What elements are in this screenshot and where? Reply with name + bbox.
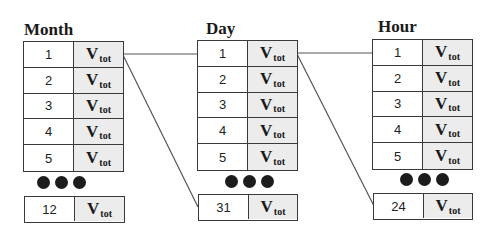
dot-icon	[55, 176, 68, 189]
hour-number: 2	[373, 66, 423, 91]
hour-table: 1Vtot 2Vtot 3Vtot 4Vtot 5Vtot	[372, 39, 473, 170]
table-row: 1Vtot	[373, 40, 472, 66]
ellipsis-dots	[400, 173, 449, 186]
table-row: 1Vtot	[198, 41, 297, 67]
month-number: 1	[24, 42, 74, 67]
table-row: 4Vtot	[24, 119, 123, 145]
connector-day-to-hour-last	[297, 54, 374, 206]
day-number: 5	[198, 144, 248, 170]
dot-icon	[418, 173, 431, 186]
table-row: 2Vtot	[24, 68, 123, 94]
day-title: Day	[206, 20, 235, 37]
vtot-cell: Vtot	[75, 197, 124, 221]
vtot-cell: Vtot	[74, 94, 123, 119]
vtot-cell: Vtot	[423, 117, 472, 142]
day-table: 1Vtot 2Vtot 3Vtot 4Vtot 5Vtot	[197, 40, 298, 171]
hour-number: 4	[373, 117, 423, 142]
table-row: 3Vtot	[24, 94, 123, 120]
dot-icon	[400, 173, 413, 186]
dot-icon	[37, 176, 50, 189]
ellipsis-dots	[225, 175, 274, 188]
day-table-last: 31Vtot	[198, 194, 298, 221]
dot-icon	[261, 175, 274, 188]
vtot-cell: Vtot	[74, 42, 123, 67]
table-row: 2Vtot	[373, 66, 472, 92]
vtot-cell: Vtot	[74, 119, 123, 144]
hour-title: Hour	[378, 18, 417, 35]
vtot-cell: Vtot	[248, 41, 297, 66]
vtot-cell: Vtot	[74, 68, 123, 93]
month-number: 2	[24, 68, 74, 93]
table-row: 3Vtot	[373, 92, 472, 118]
month-number: 4	[24, 119, 74, 144]
connector-month-to-day-last	[123, 55, 198, 207]
month-table: 1Vtot 2Vtot 3Vtot 4Vtot 5Vtot	[23, 41, 124, 172]
day-number: 1	[198, 41, 248, 66]
dot-icon	[225, 175, 238, 188]
table-row: 12Vtot	[25, 197, 124, 221]
day-number: 31	[199, 195, 249, 219]
vtot-cell: Vtot	[74, 145, 123, 171]
vtot-cell: Vtot	[423, 143, 472, 169]
month-table-last: 12Vtot	[24, 196, 125, 223]
day-number: 4	[198, 118, 248, 143]
vtot-cell: Vtot	[423, 66, 472, 91]
table-row: 5Vtot	[24, 145, 123, 171]
vtot-cell: Vtot	[423, 40, 472, 65]
month-number: 3	[24, 94, 74, 119]
hour-table-last: 24Vtot	[373, 193, 473, 220]
vtot-cell: Vtot	[248, 144, 297, 170]
day-number: 3	[198, 93, 248, 118]
hour-number: 3	[373, 92, 423, 117]
vtot-cell: Vtot	[249, 195, 297, 219]
dot-icon	[73, 176, 86, 189]
hour-number: 1	[373, 40, 423, 65]
vtot-cell: Vtot	[248, 118, 297, 143]
table-row: 2Vtot	[198, 67, 297, 93]
vtot-cell: Vtot	[424, 194, 472, 218]
day-number: 2	[198, 67, 248, 92]
dot-icon	[436, 173, 449, 186]
table-row: 3Vtot	[198, 93, 297, 119]
ellipsis-dots	[37, 176, 86, 189]
table-row: 24Vtot	[374, 194, 472, 218]
vtot-cell: Vtot	[423, 92, 472, 117]
month-title: Month	[24, 21, 73, 38]
hour-number: 24	[374, 194, 424, 218]
table-row: 5Vtot	[198, 144, 297, 170]
month-number: 5	[24, 145, 74, 171]
month-number: 12	[25, 197, 75, 221]
table-row: 31Vtot	[199, 195, 297, 219]
table-row: 4Vtot	[373, 117, 472, 143]
dot-icon	[243, 175, 256, 188]
vtot-cell: Vtot	[248, 93, 297, 118]
vtot-cell: Vtot	[248, 67, 297, 92]
table-row: 1Vtot	[24, 42, 123, 68]
table-row: 4Vtot	[198, 118, 297, 144]
hour-number: 5	[373, 143, 423, 169]
table-row: 5Vtot	[373, 143, 472, 169]
